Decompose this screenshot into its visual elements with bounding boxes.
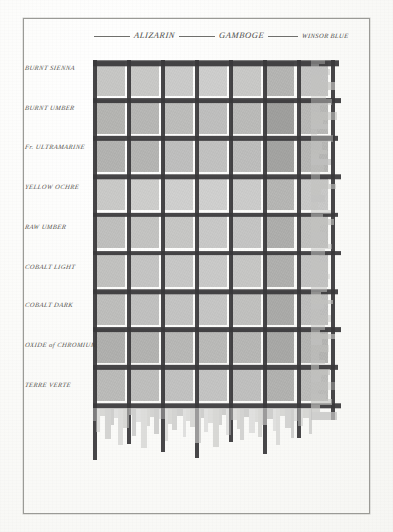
swatch-texture xyxy=(231,215,261,249)
header-label-alizarin: ALIZARIN xyxy=(133,30,175,40)
row-label-3: Fr. ULTRAMARINE xyxy=(25,143,94,150)
gridline-vertical-4 xyxy=(195,60,199,458)
swatch-r8-c4 xyxy=(197,329,227,363)
swatch-texture xyxy=(163,291,193,325)
swatch-texture xyxy=(95,215,125,249)
swatch-r3-c2 xyxy=(129,139,159,173)
swatch-r3-c7 xyxy=(299,139,329,173)
swatch-texture xyxy=(163,329,193,363)
swatch-texture xyxy=(129,62,159,96)
swatch-r7-c5 xyxy=(231,291,261,325)
swatch-r4-c7 xyxy=(299,177,329,211)
swatch-texture xyxy=(163,100,193,134)
swatch-r3-c5 xyxy=(231,139,261,173)
swatch-texture xyxy=(95,291,125,325)
swatch-r2-c1 xyxy=(95,100,125,134)
swatch-texture xyxy=(265,215,295,249)
swatch-texture xyxy=(299,100,329,134)
row-label-4: YELLOW OCHRE xyxy=(25,183,94,190)
gridline-vertical-2 xyxy=(127,60,131,444)
gridline-vertical-3 xyxy=(161,60,165,452)
swatch-texture xyxy=(129,368,159,402)
row-label-2: BURNT UMBER xyxy=(25,104,94,111)
header-label-gamboge: GAMBOGE xyxy=(219,30,265,40)
swatch-r8-c2 xyxy=(129,329,159,363)
swatch-r7-c1 xyxy=(95,291,125,325)
swatch-texture xyxy=(299,329,329,363)
swatch-r1-c3 xyxy=(163,62,193,96)
swatch-texture xyxy=(299,177,329,211)
swatch-texture xyxy=(129,215,159,249)
swatch-r7-c4 xyxy=(197,291,227,325)
paper-sheet: ALIZARIN GAMBOGE WINSOR BLUE BURNT SIENN… xyxy=(0,0,393,532)
swatch-r3-c3 xyxy=(163,139,193,173)
swatch-r6-c6 xyxy=(265,253,295,287)
swatch-texture xyxy=(299,291,329,325)
swatch-texture xyxy=(231,62,261,96)
swatch-texture xyxy=(265,253,295,287)
swatch-r1-c2 xyxy=(129,62,159,96)
gridline-vertical-7 xyxy=(297,60,301,438)
swatch-r1-c7 xyxy=(299,62,329,96)
swatch-r4-c6 xyxy=(265,177,295,211)
row-label-1: BURNT SIENNA xyxy=(25,64,94,71)
swatch-r3-c1 xyxy=(95,139,125,173)
swatch-texture xyxy=(197,291,227,325)
swatch-r8-c6 xyxy=(265,329,295,363)
swatch-r8-c7 xyxy=(299,329,329,363)
row-label-6: COBALT LIGHT xyxy=(25,263,94,270)
swatch-texture xyxy=(265,139,295,173)
swatch-r1-c4 xyxy=(197,62,227,96)
swatch-r9-c6 xyxy=(265,368,295,402)
swatch-texture xyxy=(95,329,125,363)
swatch-r9-c3 xyxy=(163,368,193,402)
swatch-r2-c7 xyxy=(299,100,329,134)
swatch-r9-c7 xyxy=(299,368,329,402)
gridline-vertical-6 xyxy=(263,60,267,454)
chart-header: ALIZARIN GAMBOGE WINSOR BLUE xyxy=(90,26,340,44)
swatch-texture xyxy=(95,62,125,96)
header-rule-mid-2 xyxy=(268,36,298,37)
swatch-texture xyxy=(197,62,227,96)
row-label-8: OXIDE of CHROMIUM xyxy=(25,341,94,348)
header-rule-mid-1 xyxy=(179,36,215,37)
swatch-r1-c5 xyxy=(231,62,261,96)
swatch-texture xyxy=(129,177,159,211)
swatch-texture xyxy=(163,62,193,96)
swatch-r4-c5 xyxy=(231,177,261,211)
swatch-texture xyxy=(163,139,193,173)
swatch-r4-c1 xyxy=(95,177,125,211)
swatch-texture xyxy=(95,100,125,134)
swatch-r1-c1 xyxy=(95,62,125,96)
row-label-column: BURNT SIENNABURNT UMBERFr. ULTRAMARINEYE… xyxy=(25,56,91,406)
swatch-r8-c5 xyxy=(231,329,261,363)
swatch-texture xyxy=(129,291,159,325)
swatch-texture xyxy=(299,139,329,173)
swatch-texture xyxy=(163,215,193,249)
swatch-texture xyxy=(163,177,193,211)
swatch-r5-c3 xyxy=(163,215,193,249)
swatch-r2-c4 xyxy=(197,100,227,134)
swatch-texture xyxy=(299,62,329,96)
swatch-r5-c7 xyxy=(299,215,329,249)
gridline-vertical-5 xyxy=(229,60,233,442)
swatch-texture xyxy=(163,253,193,287)
swatch-texture xyxy=(231,253,261,287)
swatch-texture xyxy=(197,368,227,402)
swatch-r4-c4 xyxy=(197,177,227,211)
swatch-texture xyxy=(95,253,125,287)
swatch-texture xyxy=(197,177,227,211)
swatch-r2-c6 xyxy=(265,100,295,134)
swatch-texture xyxy=(231,329,261,363)
swatch-texture xyxy=(265,329,295,363)
swatch-r7-c2 xyxy=(129,291,159,325)
swatch-r9-c4 xyxy=(197,368,227,402)
swatch-texture xyxy=(95,368,125,402)
swatch-texture xyxy=(95,177,125,211)
swatch-texture xyxy=(231,139,261,173)
swatch-r9-c2 xyxy=(129,368,159,402)
swatch-r6-c1 xyxy=(95,253,125,287)
swatch-texture xyxy=(129,139,159,173)
swatch-texture xyxy=(265,368,295,402)
swatch-r6-c5 xyxy=(231,253,261,287)
